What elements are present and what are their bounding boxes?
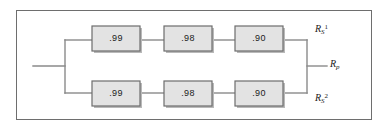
block-top-2-label: .98 [181,33,194,43]
block-bottom-3: .90 [235,81,285,108]
block-bottom-2: .98 [164,81,214,108]
figure-screenshot: .99 .98 .90 .99 .98 .90 [0,0,388,131]
label-rs2: RS2 [315,93,328,105]
block-bottom-2-label: .98 [181,88,194,98]
label-rs1-superscript: 1 [325,23,329,31]
block-bottom-1-label: .99 [109,88,122,98]
block-bottom-3-label: .90 [252,88,265,98]
block-top-1: .99 [92,26,142,53]
block-top-3: .90 [235,26,285,53]
label-rs1: RS1 [315,24,328,36]
block-bottom-1: .99 [92,81,142,108]
label-rp: Rp [330,59,340,71]
label-rs2-superscript: 2 [325,92,329,100]
label-rp-subscript: p [336,63,340,71]
block-top-1-label: .99 [109,33,122,43]
block-top-3-label: .90 [252,33,265,43]
block-top-2: .98 [164,26,214,53]
